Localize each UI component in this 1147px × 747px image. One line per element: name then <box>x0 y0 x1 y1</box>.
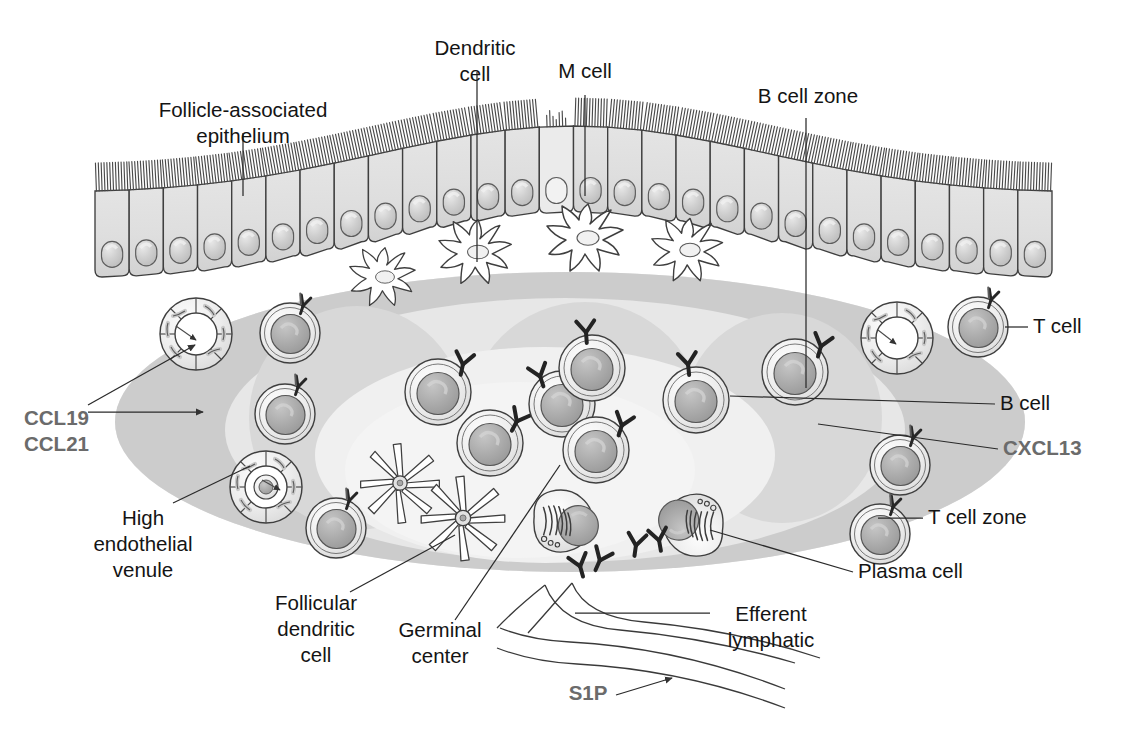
microvilli <box>951 157 985 188</box>
epithelial-cell <box>95 162 129 277</box>
dendritic-cell-4 <box>652 218 723 280</box>
figure-canvas: Follicle-associatedepitheliumDendriticce… <box>0 0 1147 747</box>
epithelial-cell <box>129 160 163 276</box>
microvilli <box>433 108 469 141</box>
fdc-2 <box>421 476 505 561</box>
label-line: lymphatic <box>728 628 815 651</box>
label-line: Efferent <box>735 602 807 625</box>
label-s1p: S1P <box>569 681 608 704</box>
microvilli <box>643 103 678 135</box>
epithelial-cell <box>847 143 885 262</box>
microvilli <box>95 162 127 191</box>
epithelial-cell <box>642 103 679 221</box>
microvilli <box>468 103 503 135</box>
microvilli <box>780 129 817 163</box>
label-line: endothelial <box>93 532 192 555</box>
label-efferent-lymphatic: Efferentlymphatic <box>728 602 815 651</box>
epithelial-cell <box>984 160 1018 276</box>
m-cell-microfolds <box>547 110 566 126</box>
epithelial-cell <box>162 157 197 274</box>
label-line: cell <box>301 643 332 666</box>
m-cell <box>539 110 573 213</box>
label-dendritic-cell: Dendriticcell <box>435 36 516 85</box>
microvilli <box>398 114 435 148</box>
label-b-cell: B cell <box>1000 391 1050 414</box>
epithelial-cell <box>504 99 539 216</box>
epithelial-cell <box>949 157 984 274</box>
microvilli <box>746 121 783 155</box>
microvilli <box>129 160 162 190</box>
label-line: epithelium <box>196 124 289 147</box>
label-line: High <box>122 506 164 529</box>
epithelial-cell <box>676 108 714 228</box>
label-ccl19-ccl21: CCL19CCL21 <box>24 406 89 455</box>
label-line: T cell <box>1033 314 1082 337</box>
epithelial-cell <box>364 121 403 242</box>
epithelial-cell <box>1018 162 1052 277</box>
epithelial-cell <box>915 153 951 271</box>
label-plasma-cell: Plasma cell <box>858 559 963 582</box>
epithelial-cell <box>608 99 643 216</box>
epithelial-cell <box>398 114 436 234</box>
epithelial-cell <box>710 114 748 234</box>
label-line: venule <box>113 558 173 581</box>
label-line: Germinal <box>398 618 481 641</box>
hev-left-lower <box>230 451 302 523</box>
epithelial-cell <box>813 136 851 256</box>
epithelial-cell <box>330 129 369 249</box>
label-line: Dendritic <box>435 36 516 59</box>
label-line: M cell <box>558 59 612 82</box>
microvilli <box>883 148 918 180</box>
microvilli <box>712 114 749 148</box>
hev-right <box>861 302 933 374</box>
label-line: B cell zone <box>758 84 858 107</box>
label-follicle-associated-epithelium: Follicle-associatedepithelium <box>159 98 328 147</box>
label-germinal-center: Germinalcenter <box>398 618 481 667</box>
label-line: CCL19 <box>24 406 89 429</box>
leader-s1p <box>616 678 672 695</box>
microvilli <box>575 98 607 127</box>
t-cell-4 <box>948 288 1008 357</box>
label-follicular-dendritic-cell: Folliculardendriticcell <box>275 591 357 666</box>
label-line: CXCL13 <box>1003 436 1082 459</box>
label-t-cell: T cell <box>1033 314 1082 337</box>
microvilli <box>364 121 401 155</box>
label-line: Follicle-associated <box>159 98 328 121</box>
microvilli <box>677 108 713 141</box>
label-line: S1P <box>569 681 608 704</box>
microvilli <box>196 153 231 184</box>
lymphoid-tissue-diagram: Follicle-associatedepitheliumDendriticce… <box>0 0 1147 747</box>
microvilli <box>262 143 298 176</box>
label-cxcl13: CXCL13 <box>1003 436 1082 459</box>
label-high-endothelial-venule: Highendothelialvenule <box>93 506 192 581</box>
microvilli <box>609 99 643 130</box>
label-line: cell <box>460 62 491 85</box>
label-m-cell: M cell <box>558 59 612 82</box>
fdc-1 <box>361 444 440 524</box>
microvilli <box>330 129 367 163</box>
epithelial-cell <box>881 148 918 267</box>
microvilli <box>848 143 884 176</box>
label-line: T cell zone <box>928 505 1027 528</box>
label-line: B cell <box>1000 391 1050 414</box>
label-line: CCL21 <box>24 432 89 455</box>
microvilli <box>1019 162 1051 191</box>
microvilli <box>814 136 851 170</box>
microvilli <box>162 157 196 188</box>
epithelial-cell <box>574 98 608 213</box>
label-line: center <box>412 644 469 667</box>
label-line: dendritic <box>277 617 355 640</box>
label-line: Follicular <box>275 591 357 614</box>
epithelial-cell <box>779 129 818 249</box>
dendritic-cell-3 <box>547 204 623 271</box>
microvilli <box>985 160 1018 190</box>
epithelial-cell <box>296 136 334 256</box>
microvilli <box>917 153 952 184</box>
microvilli <box>504 99 538 130</box>
microvilli <box>229 148 264 180</box>
epithelial-cell <box>262 143 300 262</box>
label-t-cell-zone: T cell zone <box>928 505 1027 528</box>
epithelial-cell <box>229 148 266 267</box>
label-b-cell-zone: B cell zone <box>758 84 858 107</box>
epithelial-cell <box>196 153 232 271</box>
